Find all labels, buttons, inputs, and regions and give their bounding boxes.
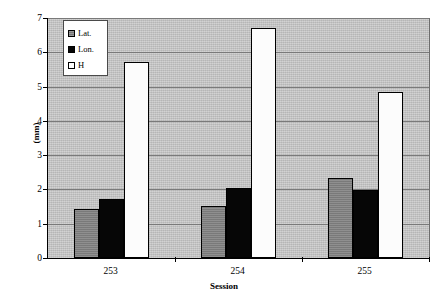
bar-lat-255 <box>328 178 353 258</box>
y-tick-label: 1 <box>22 219 42 229</box>
legend-item-lat: Lat. <box>68 25 107 41</box>
chart-legend: Lat. Lon. H <box>63 20 108 76</box>
x-axis-title: Session <box>0 281 448 291</box>
legend-label-lat: Lat. <box>78 29 91 38</box>
bar-h-253 <box>124 62 149 258</box>
y-tick-label: 4 <box>22 116 42 126</box>
legend-swatch-lat-icon <box>68 30 75 37</box>
category-separator <box>302 257 303 262</box>
legend-item-h: H <box>68 57 107 73</box>
legend-swatch-h-icon <box>68 62 75 69</box>
x-category-label-253: 253 <box>103 266 117 276</box>
y-tick-label: 6 <box>22 47 42 57</box>
category-separator <box>429 257 430 262</box>
category-separator <box>175 257 176 262</box>
y-tick-label: 2 <box>22 184 42 194</box>
plot-right-border <box>429 18 430 258</box>
y-tick-label: 0 <box>22 253 42 263</box>
bar-h-255 <box>378 92 403 258</box>
gridline <box>48 87 429 88</box>
legend-label-lon: Lon. <box>78 45 94 54</box>
x-category-label-254: 254 <box>230 266 244 276</box>
legend-swatch-lon-icon <box>68 46 75 53</box>
bar-lon-253 <box>99 199 124 258</box>
legend-item-lon: Lon. <box>68 41 107 57</box>
bar-chart: (mm) 01234567 253254255 Session Lat. Lon… <box>0 0 448 298</box>
y-tick-label: 3 <box>22 150 42 160</box>
gridline <box>48 121 429 122</box>
bar-lat-254 <box>201 206 226 258</box>
y-tick-label: 5 <box>22 82 42 92</box>
gridline <box>48 18 429 19</box>
y-tick-label: 7 <box>22 13 42 23</box>
gridline <box>48 155 429 156</box>
x-category-label-255: 255 <box>357 266 371 276</box>
bar-lat-253 <box>74 209 99 258</box>
bar-lon-254 <box>226 188 251 258</box>
y-axis-tick-labels: 01234567 <box>22 0 42 298</box>
legend-label-h: H <box>78 61 84 70</box>
bar-h-254 <box>251 28 276 258</box>
bar-lon-255 <box>353 190 378 258</box>
